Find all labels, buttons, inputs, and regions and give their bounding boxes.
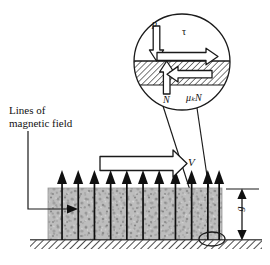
gap-height-label: g: [234, 206, 246, 211]
block-fill-overlay: [48, 188, 222, 240]
kinetic-friction-label: μₖN: [186, 92, 202, 104]
figure-canvas: Lines of magnetic field p τ N μₖN V g: [0, 0, 270, 265]
dimension-arrowhead-down: [237, 230, 246, 241]
ground-hatching: [30, 241, 262, 250]
lines-of-magnetic-field-label: Lines of magnetic field: [9, 104, 72, 130]
speckled-block: [48, 188, 222, 240]
normal-force-label: N: [163, 94, 170, 106]
shear-stress-label: τ: [182, 26, 186, 38]
dimension-arrowhead-up: [237, 189, 246, 200]
pressure-force-label: p: [152, 18, 157, 30]
diagram-svg: [0, 0, 270, 265]
hatched-ground: [30, 240, 262, 249]
gap-dimension: [226, 189, 259, 241]
velocity-label: V: [188, 156, 195, 169]
